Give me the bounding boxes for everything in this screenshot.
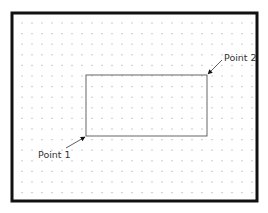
- grid-dot: [151, 160, 152, 161]
- grid-dot: [21, 44, 22, 45]
- grid-dot: [151, 44, 152, 45]
- grid-dot: [91, 75, 92, 76]
- grid-dot: [241, 65, 242, 66]
- grid-dot: [71, 97, 72, 98]
- grid-dot: [191, 97, 192, 98]
- grid-dot: [141, 192, 142, 193]
- grid-dot: [31, 86, 32, 87]
- grid-dot: [191, 33, 192, 34]
- grid-dot: [101, 33, 102, 34]
- grid-dot: [251, 181, 252, 182]
- grid-dot: [21, 171, 22, 172]
- grid-dot: [191, 128, 192, 129]
- grid-dot: [41, 97, 42, 98]
- grid-dot: [61, 128, 62, 129]
- grid-dot: [141, 97, 142, 98]
- grid-dot: [171, 107, 172, 108]
- grid-dot: [161, 192, 162, 193]
- grid-dot: [231, 150, 232, 151]
- grid-dot: [71, 107, 72, 108]
- grid-dot: [111, 139, 112, 140]
- grid-dot: [71, 75, 72, 76]
- grid-dot: [61, 44, 62, 45]
- grid-dot: [191, 139, 192, 140]
- grid-dot: [211, 160, 212, 161]
- grid-dot: [241, 150, 242, 151]
- grid-dot: [81, 192, 82, 193]
- grid-dot: [101, 86, 102, 87]
- grid-dot: [201, 75, 202, 76]
- grid-dot: [151, 33, 152, 34]
- grid-dot: [41, 128, 42, 129]
- grid-dot: [181, 118, 182, 119]
- grid-dot: [71, 118, 72, 119]
- grid-dot: [251, 150, 252, 151]
- grid-dot: [141, 171, 142, 172]
- grid-dot: [21, 97, 22, 98]
- grid-dot: [151, 22, 152, 23]
- grid-dot: [151, 139, 152, 140]
- grid-dot: [161, 65, 162, 66]
- grid-dot: [141, 33, 142, 34]
- grid-dot: [21, 54, 22, 55]
- grid-dot: [91, 54, 92, 55]
- grid-dot: [31, 118, 32, 119]
- grid-dot: [121, 181, 122, 182]
- grid-dot: [21, 128, 22, 129]
- grid-dot: [21, 33, 22, 34]
- grid-dot: [121, 22, 122, 23]
- grid-dot: [181, 171, 182, 172]
- grid-dot: [71, 139, 72, 140]
- grid-dot: [251, 160, 252, 161]
- grid-dot: [51, 181, 52, 182]
- rectangle-shape[interactable]: [86, 75, 207, 136]
- grid-dot: [191, 181, 192, 182]
- grid-dot: [121, 33, 122, 34]
- grid-dot: [241, 139, 242, 140]
- grid-dot: [41, 22, 42, 23]
- grid-dot: [121, 65, 122, 66]
- grid-dot: [91, 139, 92, 140]
- grid-dot: [111, 86, 112, 87]
- grid-dot: [201, 160, 202, 161]
- grid-dot: [171, 160, 172, 161]
- grid-dot: [81, 150, 82, 151]
- grid-dot: [61, 181, 62, 182]
- grid-dot: [41, 75, 42, 76]
- grid-dot: [231, 65, 232, 66]
- grid-dot: [91, 33, 92, 34]
- grid-dot: [161, 128, 162, 129]
- grid-dot: [221, 192, 222, 193]
- grid-dot: [141, 75, 142, 76]
- grid-dot: [121, 97, 122, 98]
- grid-dot: [141, 150, 142, 151]
- grid-dot: [161, 107, 162, 108]
- grid-dot: [231, 160, 232, 161]
- grid-dot: [121, 86, 122, 87]
- grid-dot: [71, 65, 72, 66]
- grid-dot: [161, 97, 162, 98]
- grid-dot: [81, 107, 82, 108]
- grid-dot: [61, 86, 62, 87]
- grid-dot: [161, 150, 162, 151]
- grid-dot: [51, 97, 52, 98]
- grid-dot: [111, 65, 112, 66]
- grid-dot: [211, 86, 212, 87]
- grid-dot: [101, 107, 102, 108]
- grid-dot: [161, 75, 162, 76]
- grid-dot: [111, 118, 112, 119]
- grid-dot: [161, 86, 162, 87]
- grid-dot: [231, 107, 232, 108]
- grid-dot: [191, 22, 192, 23]
- grid-dot: [151, 181, 152, 182]
- grid-dot: [21, 22, 22, 23]
- grid-dot: [101, 128, 102, 129]
- grid-dot: [61, 33, 62, 34]
- grid-dot: [141, 86, 142, 87]
- grid-dot: [51, 86, 52, 87]
- grid-dot: [31, 97, 32, 98]
- grid-dot: [91, 107, 92, 108]
- grid-dot: [171, 181, 172, 182]
- grid-dot: [171, 150, 172, 151]
- grid-dot: [231, 171, 232, 172]
